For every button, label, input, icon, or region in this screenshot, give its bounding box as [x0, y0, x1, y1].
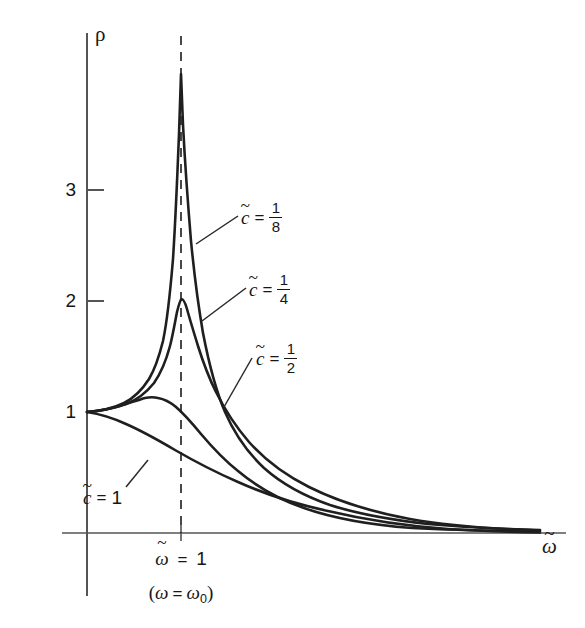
x-tick-label-omega-equals-one: ~ ω = 1 [121, 545, 241, 573]
omega-symbol-natural: ω [186, 582, 199, 603]
leader-line-c-one [126, 460, 148, 487]
fraction-one-quarter: 1 4 [277, 272, 290, 307]
paren-close: ) [207, 582, 213, 603]
curve-c-one-eighth [87, 74, 540, 530]
equals-sign-c-one-quarter: = [262, 281, 272, 298]
value-c-one: 1 [111, 488, 122, 507]
c-symbol-one: c [83, 487, 91, 508]
c-symbol-one-half: c [256, 348, 264, 369]
curve-c-one [87, 412, 540, 533]
omega-symbol-plain: ω [155, 582, 168, 603]
annotation-c-one-eighth: ~ c = 1 8 [240, 200, 282, 235]
y-tick-label-3: 3 [50, 180, 76, 199]
fraction-one-eighth: 1 8 [269, 200, 282, 235]
equals-sign-c-one-half: = [269, 350, 279, 367]
omega-subscript-zero: 0 [200, 591, 207, 605]
equals-sign-c-one-eighth: = [254, 209, 264, 226]
fraction-denominator-one-eighth: 8 [270, 218, 282, 235]
y-tick-label-1: 1 [50, 402, 76, 421]
leader-line-c-one-eighth [196, 216, 238, 244]
leader-line-c-one-half [224, 358, 252, 407]
annotation-c-one-quarter: ~ c = 1 4 [248, 272, 290, 307]
annotation-c-one-half: ~ c = 1 2 [255, 341, 297, 376]
fraction-denominator-one-quarter: 4 [278, 290, 290, 307]
fraction-one-half: 1 2 [284, 341, 297, 376]
x-tick-value-one: 1 [196, 548, 207, 569]
x-tick-equals-sign: = [177, 550, 187, 569]
omega0-equals-sign: = [173, 584, 183, 603]
x-axis-omega-symbol: ω [542, 534, 557, 558]
fraction-numerator-one-quarter: 1 [278, 272, 290, 289]
x-tick-label-group: ~ ω = 1 (ω=ω0) [121, 545, 241, 607]
x-tick-label-omega-equals-omega0: (ω=ω0) [121, 579, 241, 608]
y-tick-label-2: 2 [50, 291, 76, 310]
equals-sign-c-one: = [96, 489, 106, 506]
x-tick-omega-symbol: ω [155, 548, 168, 569]
leader-line-c-one-quarter [202, 288, 246, 321]
annotation-c-one: ~ c = 1 [82, 488, 122, 507]
resonance-response-figure: ρ ~ ω 3 2 1 ~ ω = 1 (ω=ω0) ~ c = 1 [0, 0, 585, 628]
x-axis-label: ~ ω [542, 536, 557, 557]
c-symbol-one-quarter: c [249, 279, 257, 300]
curve-c-one-half [87, 397, 540, 531]
plot-canvas [0, 0, 585, 628]
fraction-denominator-one-half: 2 [285, 359, 297, 376]
curve-c-one-quarter [87, 299, 540, 531]
c-symbol-one-eighth: c [241, 207, 249, 228]
fraction-numerator-one-half: 1 [285, 341, 297, 358]
y-axis-label: ρ [95, 24, 105, 45]
fraction-numerator-one-eighth: 1 [270, 200, 282, 217]
